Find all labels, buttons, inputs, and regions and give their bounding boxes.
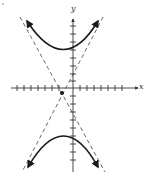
- center-dot: [60, 91, 64, 95]
- corner-mark: [2, 3, 4, 5]
- x-axis-label: x: [139, 83, 144, 91]
- graph-canvas: [0, 0, 146, 180]
- y-axis-label: y: [71, 5, 76, 13]
- upper-branch: [27, 21, 98, 50]
- y-axis: [70, 19, 76, 172]
- hyperbola-figure: y x: [0, 0, 146, 180]
- x-axis: [11, 85, 138, 91]
